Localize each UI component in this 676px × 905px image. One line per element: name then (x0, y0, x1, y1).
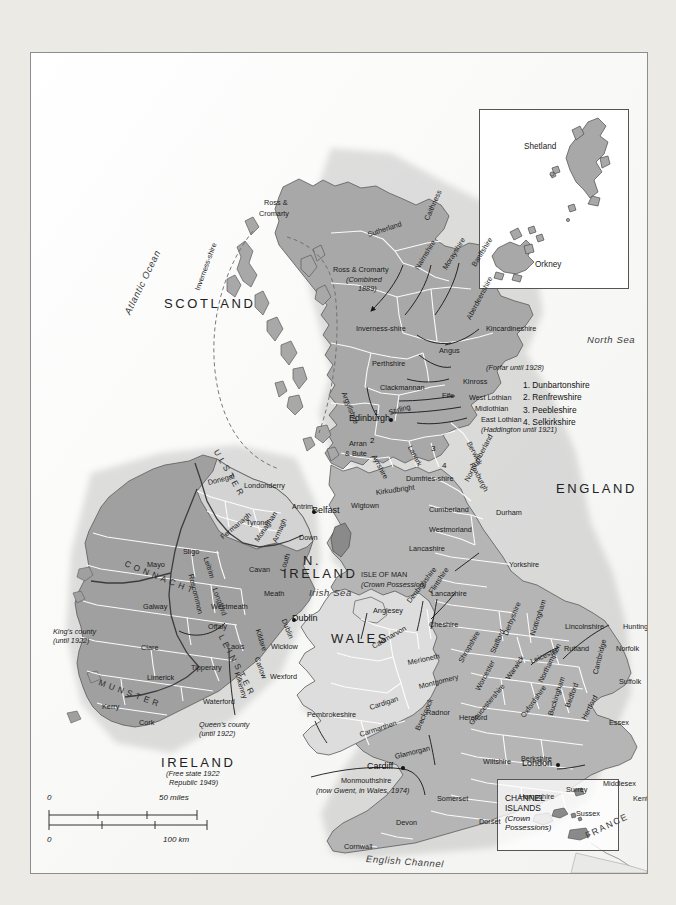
county-label: Kent (633, 795, 648, 804)
city-label: London (522, 758, 552, 769)
county-label: Londonderry (244, 482, 285, 491)
county-label: Lancashire (409, 545, 445, 554)
county-label: Limerick (147, 674, 174, 683)
county-label: Somerset (437, 795, 468, 804)
callout-caption: (until 1922) (53, 637, 90, 646)
callout-caption: (until 1922) (199, 730, 236, 739)
county-label: Durham (496, 509, 522, 518)
scale-bar-graphic (47, 809, 237, 835)
county-label: Westmorland (429, 526, 472, 535)
map-number: 3 (431, 444, 435, 454)
county-label: Clackmannan (380, 384, 425, 393)
county-label: Wexford (270, 673, 297, 682)
county-label: Huntingdonshire (623, 623, 648, 632)
county-label: Wigtown (351, 502, 379, 511)
county-label: (Haddington until 1921) (481, 426, 557, 435)
county-label: Cavan (249, 566, 270, 575)
county-label: Dorset (479, 818, 501, 827)
ci-sub1: (Crown (505, 814, 551, 824)
shetland-orkney-inset: Shetland Orkney (479, 109, 629, 289)
county-label: Norfolk (616, 645, 639, 654)
numbered-key-item: 2. Renfrewshire (523, 391, 590, 403)
county-label: Cumberland (429, 506, 469, 515)
county-label: Perthshire (372, 360, 405, 369)
city-dot (401, 766, 405, 770)
country-label: ENGLAND (556, 481, 637, 497)
country-label: IRELAND (283, 566, 358, 582)
county-label: Arran (349, 440, 367, 449)
county-label: Yorkshire (509, 561, 539, 570)
scale-miles-max: 50 miles (159, 793, 189, 802)
county-label: & Bute (345, 450, 367, 459)
numbered-key-item: 1. Dunbartonshire (523, 379, 590, 391)
ci-sub2: Possessions) (505, 823, 551, 833)
isle-of-man-caption: (Crown Possession) (361, 581, 426, 590)
county-label: Hereford (459, 714, 487, 723)
channel-islands-inset: CHANNEL ISLANDS (Crown Possessions) (497, 779, 619, 851)
county-label: Wicklow (271, 643, 298, 652)
county-label: Cromarty (259, 210, 289, 219)
map-page: THE BRITISH ISLES IN 1965 (showing all t… (0, 0, 676, 905)
county-label: (Forfar until 1928) (486, 364, 544, 373)
county-label: Rutland (564, 645, 589, 654)
scale-km-zero: 0 (47, 835, 51, 844)
county-label: Westmeath (211, 603, 248, 612)
county-label: Fife (442, 392, 454, 401)
county-label: 1889) (358, 285, 377, 294)
county-label: Galway (143, 603, 167, 612)
county-label: Down (299, 534, 318, 543)
ci-line2: ISLANDS (505, 803, 541, 813)
city-label: Edinburgh (349, 413, 390, 424)
country-caption: Republic 1949) (169, 779, 218, 788)
inset-label-orkney: Orkney (535, 260, 561, 270)
county-label: Offaly (208, 623, 227, 632)
county-label: Wiltshire (483, 758, 511, 767)
county-label: Sligo (183, 548, 199, 557)
country-label: SCOTLAND (164, 296, 256, 312)
county-label: Essex (609, 719, 629, 728)
scotland-numbered-key: 1. Dunbartonshire2. Renfrewshire3. Peebl… (523, 379, 590, 429)
map-number: 4 (442, 461, 446, 471)
county-label: Kincardineshire (486, 325, 536, 334)
inset-label-shetland: Shetland (524, 142, 556, 152)
city-dot (556, 763, 560, 767)
city-label: Cardiff (367, 761, 393, 772)
scale-miles-zero: 0 (47, 793, 51, 802)
county-label: Monmouthshire (341, 777, 391, 786)
county-label: Lincolnshire (565, 623, 604, 632)
county-label: East Lothian (481, 416, 522, 425)
county-label: Cork (139, 719, 154, 728)
county-label: Antrim (292, 503, 313, 512)
city-label: Belfast (312, 505, 340, 516)
sea-label: North Sea (587, 334, 635, 345)
sea-label: Irish Sea (309, 587, 352, 598)
county-label: Surrey (566, 786, 588, 795)
isle-of-man-label: ISLE OF MAN (361, 571, 407, 580)
county-label: Mayo (147, 561, 165, 570)
county-label: Anglesey (373, 607, 403, 616)
county-label: (now Gwent, in Wales, 1974) (316, 787, 410, 796)
numbered-key-item: 3. Peebleshire (523, 404, 590, 416)
city-label: Dublin (292, 613, 318, 624)
county-label: Pembrokeshire (307, 711, 356, 720)
county-label: Ross & Cromarty (333, 266, 389, 275)
county-label: Middlesex (603, 780, 636, 789)
county-label: Kerry (102, 703, 119, 712)
map-frame: THE BRITISH ISLES IN 1965 (showing all t… (30, 52, 648, 874)
county-label: Sussex (576, 810, 600, 819)
county-label: Laois (227, 643, 244, 652)
county-label: Suffolk (619, 678, 641, 687)
map-number: 2 (370, 436, 374, 446)
county-label: West Lothian (469, 394, 511, 403)
county-label: Kinross (463, 378, 487, 387)
county-label: Angus (439, 347, 460, 356)
county-label: Inverness-shire (356, 325, 406, 334)
county-label: Devon (396, 819, 417, 828)
county-label: Tipperary (191, 664, 222, 673)
county-label: Cornwall (344, 843, 372, 852)
county-label: Ross & (264, 199, 288, 208)
scale-km-max: 100 km (163, 835, 189, 844)
scale-bar: 0 50 miles 0 100 km (47, 793, 237, 849)
county-label: Clare (141, 644, 158, 653)
county-label: Cheshire (429, 621, 458, 630)
